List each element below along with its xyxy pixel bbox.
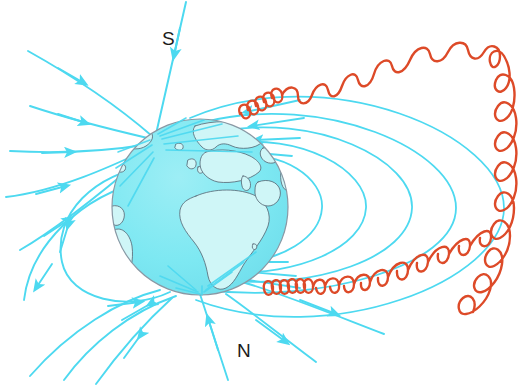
diagram-canvas: S N <box>0 0 530 392</box>
label-north-pole: N <box>237 340 251 361</box>
solar-wind-lower-coil <box>264 279 313 295</box>
land-arabia <box>255 180 280 206</box>
land-iceland <box>175 143 183 150</box>
land-british-isles <box>187 159 196 169</box>
magnetosphere-figure: S N <box>0 0 530 392</box>
field-line-inbound-3-arrow <box>42 152 72 153</box>
label-south-pole: S <box>162 28 175 49</box>
land-island-small-1 <box>252 244 257 250</box>
